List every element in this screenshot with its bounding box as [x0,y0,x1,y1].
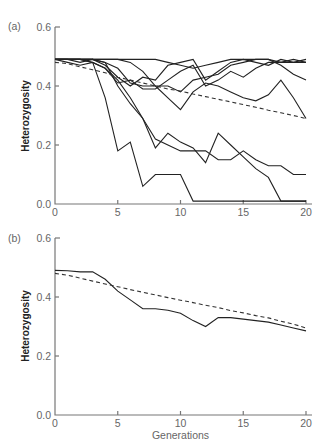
expected-heterozygosity-line [55,273,306,328]
panel-b-label: (b) [8,232,21,244]
panel-a-plot-area [55,59,306,201]
panel-b-y-axis-label: Heterozygosity [20,290,31,362]
panel-b-xtick-label: 5 [115,417,121,429]
panel-b-xtick-label: 20 [300,417,312,429]
panel-a-ytick-label: 0.4 [36,80,51,92]
panel-b-xtick-label: 0 [52,417,58,429]
panel-a: (a) Heterozygosity 0.6 0.4 0.2 0.0 0 5 1… [8,20,312,218]
panel-a-ytick-label: 0.0 [36,198,51,210]
panel-a-xtick-label: 20 [300,206,312,218]
panel-a-xtick-label: 15 [237,206,249,218]
panel-a-axes [55,27,312,204]
panel-b-axes [55,238,312,415]
panel-b-ytick-label: 0.4 [36,291,51,303]
panel-a-y-ticks: 0.6 0.4 0.2 0.0 [36,21,60,210]
panel-a-label: (a) [8,20,21,32]
panel-b: (b) Heterozygosity 0.6 0.4 0.2 0.0 0 5 1… [8,232,312,441]
series-line-4 [55,59,306,92]
series-line-6 [55,59,306,174]
panel-b-y-ticks: 0.6 0.4 0.2 0.0 [36,232,60,421]
panel-b-xtick-label: 10 [175,417,187,429]
panel-b-ytick-label: 0.6 [36,232,51,244]
panel-b-x-ticks: 0 5 10 15 20 [52,411,312,429]
panel-a-ytick-label: 0.2 [36,139,51,151]
panel-a-xtick-label: 5 [115,206,121,218]
panel-b-ytick-label: 0.2 [36,350,51,362]
panel-a-xtick-label: 0 [52,206,58,218]
panel-b-plot-area [55,270,306,331]
series-line-8 [55,59,306,201]
series-line-7 [55,59,306,201]
panel-a-x-ticks: 0 5 10 15 20 [52,200,312,218]
panel-b-ytick-label: 0.0 [36,409,51,421]
panel-b-xtick-label: 15 [237,417,249,429]
panel-a-ytick-label: 0.6 [36,21,51,33]
panel-a-y-axis-label: Heterozygosity [20,80,31,152]
panel-a-xtick-label: 10 [175,206,187,218]
figure: (a) Heterozygosity 0.6 0.4 0.2 0.0 0 5 1… [0,0,332,442]
x-axis-label: Generations [152,429,209,441]
